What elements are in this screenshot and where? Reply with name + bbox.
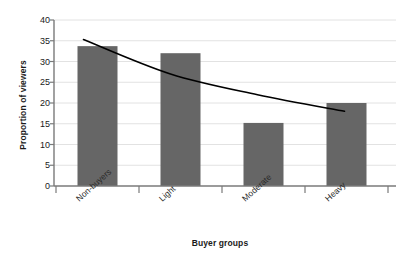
bar [78, 46, 118, 186]
bar [327, 103, 367, 186]
trend-line [84, 40, 345, 112]
plot-area [0, 0, 420, 267]
bar-chart: Proportion of viewers Buyer groups 05101… [0, 0, 420, 267]
